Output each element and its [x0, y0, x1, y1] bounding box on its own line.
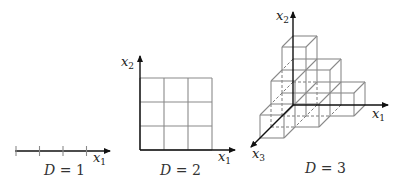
- panel-d2-grid: [140, 56, 235, 150]
- panel-d3-cubes: [251, 12, 388, 147]
- d3-x1-label: x1: [372, 106, 385, 123]
- d2-x1-label: x1: [218, 149, 231, 166]
- d3-x2-label: x2: [276, 8, 289, 25]
- d3-x3-label: x3: [252, 146, 265, 163]
- d3-caption: D = 3: [305, 160, 346, 176]
- diagram-canvas: [0, 0, 396, 186]
- d2-caption: D = 2: [160, 162, 201, 178]
- d2-grid-cells: [140, 78, 212, 150]
- d2-x2-label: x2: [121, 54, 134, 71]
- x3-axis-arrow-icon: [251, 105, 293, 147]
- d1-x1-label: x1: [93, 150, 106, 167]
- d1-caption: D = 1: [44, 162, 85, 178]
